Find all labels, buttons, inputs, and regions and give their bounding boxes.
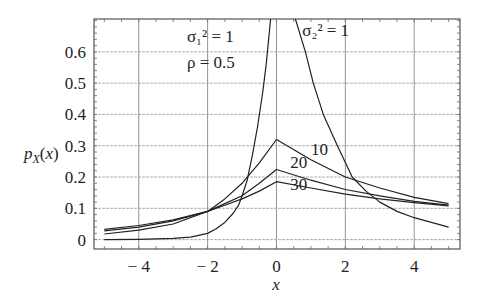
y-tick-label: 0.3 bbox=[65, 137, 86, 156]
x-tick-label: − 4 bbox=[128, 257, 151, 276]
y-tick-label: 0 bbox=[78, 231, 87, 250]
x-tick-label: − 2 bbox=[196, 257, 218, 276]
y-tick-label: 0.1 bbox=[65, 199, 86, 218]
y-tick-label: 0.5 bbox=[65, 74, 86, 93]
annotation-label: 20 bbox=[290, 153, 307, 172]
x-tick-labels: − 4− 2024 bbox=[128, 257, 419, 276]
x-axis-label: x bbox=[271, 275, 280, 294]
y-axis-label: pX(x) bbox=[23, 144, 59, 166]
y-tick-label: 0.2 bbox=[65, 168, 86, 187]
x-tick-label: 0 bbox=[272, 257, 281, 276]
annotation-label: 10 bbox=[311, 140, 328, 159]
annotation-label: σ₁² = 1 bbox=[187, 27, 234, 46]
y-tick-label: 0.4 bbox=[65, 105, 87, 124]
annotation-label: σ₂² = 1 bbox=[302, 21, 349, 40]
annotation-label: 30 bbox=[290, 175, 307, 194]
y-tick-labels: 00.10.20.30.40.50.6 bbox=[65, 43, 87, 250]
x-tick-label: 2 bbox=[341, 257, 350, 276]
chart: − 4− 2024 00.10.20.30.40.50.6 σ₁² = 1ρ =… bbox=[0, 0, 484, 307]
y-tick-label: 0.6 bbox=[65, 43, 86, 62]
x-tick-label: 4 bbox=[410, 257, 419, 276]
annotation-label: ρ = 0.5 bbox=[187, 53, 235, 72]
